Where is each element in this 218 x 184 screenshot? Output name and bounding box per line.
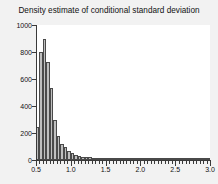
x-axis-tick-label: 2.5	[163, 166, 187, 173]
x-axis-tick-label: 0.5	[24, 166, 48, 173]
x-axis-tick	[50, 161, 51, 164]
x-axis-tick	[165, 161, 166, 164]
y-axis-tick-label: 600	[4, 76, 32, 83]
x-axis-tick	[71, 161, 72, 166]
x-axis-tick	[123, 161, 124, 164]
x-axis-tick	[46, 161, 47, 164]
x-axis-tick	[182, 161, 183, 164]
x-axis-tick	[92, 161, 93, 164]
x-axis-tick	[106, 161, 107, 166]
x-axis-tick	[109, 161, 110, 164]
x-axis-tick	[151, 161, 152, 164]
x-axis-tick	[60, 161, 61, 164]
x-axis-tick	[85, 161, 86, 164]
x-axis-tick	[57, 161, 58, 164]
x-axis-tick	[140, 161, 141, 166]
x-axis-tick	[175, 161, 176, 166]
x-axis-tick	[133, 161, 134, 164]
x-axis-tick	[64, 161, 65, 164]
x-axis-tick	[200, 161, 201, 164]
x-axis-tick-label: 1.0	[59, 166, 83, 173]
x-axis-tick	[102, 161, 103, 164]
x-axis-tick	[74, 161, 75, 164]
x-axis-tick	[39, 161, 40, 164]
x-axis-tick	[137, 161, 138, 164]
x-axis-tick	[126, 161, 127, 164]
x-axis-tick	[67, 161, 68, 164]
x-axis-tick	[99, 161, 100, 164]
x-axis-tick	[189, 161, 190, 164]
x-axis-tick	[168, 161, 169, 164]
y-axis-tick-label: 200	[4, 130, 32, 137]
x-axis-tick-label: 3.0	[198, 166, 218, 173]
x-axis-tick	[36, 161, 37, 166]
x-axis-tick	[210, 161, 211, 166]
x-axis-tick	[116, 161, 117, 164]
plot-area	[36, 25, 210, 160]
x-axis-tick	[43, 161, 44, 164]
x-axis-tick-label: 2.0	[128, 166, 152, 173]
x-axis-tick	[172, 161, 173, 164]
x-axis-tick	[207, 161, 208, 164]
y-axis-tick-label: 0	[4, 157, 32, 164]
x-axis-tick	[154, 161, 155, 164]
chart-title: Density estimate of conditional standard…	[0, 6, 218, 15]
x-axis-tick	[179, 161, 180, 164]
x-axis-tick	[78, 161, 79, 164]
x-axis-tick	[144, 161, 145, 164]
x-axis-tick	[53, 161, 54, 164]
x-axis-tick	[88, 161, 89, 164]
x-axis-tick	[95, 161, 96, 164]
y-axis-tick-label: 800	[4, 49, 32, 56]
x-axis-tick	[147, 161, 148, 164]
x-axis-tick	[130, 161, 131, 164]
x-axis-tick	[193, 161, 194, 164]
x-axis-tick	[203, 161, 204, 164]
x-axis-tick	[158, 161, 159, 164]
chart-figure: Density estimate of conditional standard…	[0, 0, 218, 184]
x-axis-tick	[113, 161, 114, 164]
y-axis-line	[36, 25, 37, 161]
y-axis-tick-label: 400	[4, 103, 32, 110]
x-axis-tick	[81, 161, 82, 164]
x-axis-tick	[161, 161, 162, 164]
x-axis-tick	[186, 161, 187, 164]
y-axis-tick-label: 1000	[4, 22, 32, 29]
x-axis-tick	[196, 161, 197, 164]
x-axis-tick-label: 1.5	[94, 166, 118, 173]
x-axis-tick	[120, 161, 121, 164]
